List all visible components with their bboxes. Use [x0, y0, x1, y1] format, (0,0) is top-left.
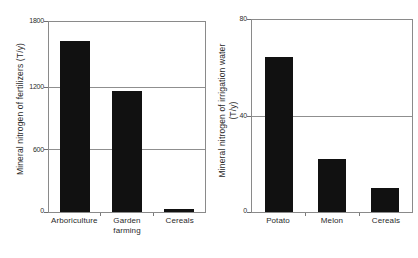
bar-arboriculture — [60, 41, 90, 213]
y-tick-label-80: 80 — [225, 15, 247, 22]
x-label-potato: Potato — [251, 216, 305, 226]
x-label-cereals-right: Cereals — [359, 216, 413, 226]
bar-cell-cereals-right — [359, 20, 412, 212]
x-label-arboriculture-text: Arboriculture — [51, 216, 98, 225]
bar-melon — [318, 159, 346, 212]
bar-garden-farming — [112, 91, 142, 212]
x-label-arboriculture: Arboriculture — [48, 216, 101, 236]
y-tick-label-0-right: 0 — [225, 207, 247, 214]
x-axis-labels-irrigation-water: Potato Melon Cereals — [251, 216, 413, 226]
x-label-cereals: Cereals — [153, 216, 206, 236]
y-tick-label-40: 40 — [225, 112, 247, 119]
x-label-garden-farming: Garden farming — [101, 216, 154, 236]
plot-area-fertilizers — [48, 21, 206, 213]
bar-cell-potato — [252, 20, 305, 212]
x-label-melon: Melon — [305, 216, 359, 226]
bar-potato — [265, 57, 293, 212]
bar-group-irrigation-water — [252, 20, 412, 212]
x-label-garden-farming-line1: Garden — [113, 216, 140, 225]
y-axis-title-irrigation-line1: Mineral nitrogen of irrigation water — [217, 44, 227, 178]
bar-cereals — [164, 209, 194, 212]
bar-cell-arboriculture — [49, 22, 101, 212]
bar-cereals-irrigation — [371, 188, 399, 212]
x-label-cereals-right-text: Cereals — [372, 216, 400, 225]
y-tick-label-0: 0 — [18, 207, 44, 214]
y-tick-label-1200: 1200 — [18, 83, 44, 90]
chart-panel-irrigation-water: Mineral nitrogen of irrigation water (T/… — [209, 0, 418, 258]
y-tick-label-1800: 1800 — [18, 17, 44, 24]
chart-panel-fertilizers: Mineral nitrogen of fertilizers (T/y) 18… — [0, 0, 209, 258]
x-label-cereals-text: Cereals — [166, 216, 194, 225]
bar-cell-melon — [305, 20, 358, 212]
plot-area-irrigation-water — [251, 19, 413, 213]
y-axis-title-fertilizers: Mineral nitrogen of fertilizers (T/y) — [15, 9, 25, 209]
x-label-garden-farming-line2: farming — [113, 226, 140, 235]
bar-cell-cereals — [153, 22, 205, 212]
y-tick-label-600: 600 — [18, 146, 44, 153]
figure-two-bar-charts: Mineral nitrogen of fertilizers (T/y) 18… — [0, 0, 418, 258]
bar-cell-garden-farming — [101, 22, 153, 212]
x-axis-labels-fertilizers: Arboriculture Garden farming Cereals — [48, 216, 206, 236]
y-axis-title-irrigation-water: Mineral nitrogen of irrigation water (T/… — [217, 11, 238, 211]
x-label-melon-text: Melon — [321, 216, 343, 225]
x-label-potato-text: Potato — [266, 216, 290, 225]
bar-group-fertilizers — [49, 22, 205, 212]
